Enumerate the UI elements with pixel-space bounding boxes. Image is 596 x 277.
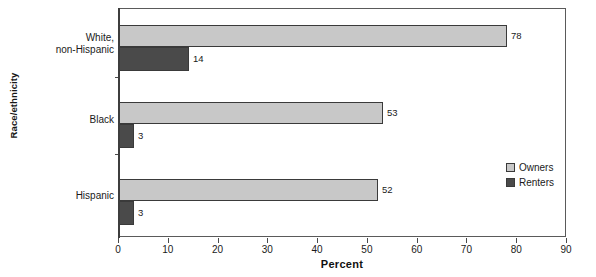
- x-tick: [516, 238, 517, 243]
- legend-swatch-renters-icon: [506, 178, 515, 187]
- plot-area: 78 14 53 3 52 3: [118, 8, 566, 237]
- bar-hispanic-owners: [119, 179, 378, 201]
- x-tick-label: 50: [352, 244, 382, 255]
- category-label-white-non-hispanic: White, non-Hispanic: [4, 32, 118, 55]
- x-tick-label: 30: [252, 244, 282, 255]
- bar-value-hispanic-owners: 52: [382, 185, 393, 195]
- x-tick: [218, 238, 219, 243]
- x-tick: [118, 238, 119, 243]
- x-tick-label: 40: [302, 244, 332, 255]
- value-axis-line: [118, 8, 120, 238]
- bar-white-non-hispanic-owners: [119, 25, 507, 47]
- bar-value-white-non-hispanic-renters: 14: [193, 54, 204, 64]
- chart-legend: Owners Renters: [506, 160, 554, 190]
- legend-item-renters: Renters: [506, 175, 554, 189]
- category-axis-labels: White, non-Hispanic Black Hispanic: [0, 0, 118, 277]
- legend-label-owners: Owners: [519, 162, 553, 173]
- bar-black-owners: [119, 102, 383, 124]
- x-tick: [466, 238, 467, 243]
- x-tick-label: 80: [501, 244, 531, 255]
- bar-white-non-hispanic-renters: [119, 47, 189, 71]
- category-label-black: Black: [4, 114, 118, 126]
- x-tick-label: 60: [402, 244, 432, 255]
- x-tick: [168, 238, 169, 243]
- x-tick: [267, 238, 268, 243]
- category-label-line1: Hispanic: [76, 190, 114, 201]
- category-label-line2: non-Hispanic: [56, 44, 114, 55]
- category-label-line1: Black: [90, 114, 114, 125]
- x-tick: [317, 238, 318, 243]
- x-tick-label: 20: [203, 244, 233, 255]
- x-axis-title: Percent: [118, 258, 566, 270]
- x-tick-label: 70: [451, 244, 481, 255]
- x-tick-label: 10: [153, 244, 183, 255]
- bar-value-hispanic-renters: 3: [138, 208, 143, 218]
- x-tick: [367, 238, 368, 243]
- bar-hispanic-renters: [119, 201, 134, 225]
- x-tick: [566, 238, 567, 243]
- category-label-line1: White,: [86, 32, 114, 43]
- x-tick-label: 0: [103, 244, 133, 255]
- legend-label-renters: Renters: [519, 177, 554, 188]
- legend-item-owners: Owners: [506, 160, 554, 174]
- bar-value-black-renters: 3: [138, 131, 143, 141]
- bar-value-white-non-hispanic-owners: 78: [511, 31, 522, 41]
- x-tick: [417, 238, 418, 243]
- bar-value-black-owners: 53: [387, 108, 398, 118]
- legend-swatch-owners-icon: [506, 163, 515, 172]
- bar-chart: Race/ethnicity White, non-Hispanic Black…: [0, 0, 596, 277]
- x-tick-label: 90: [551, 244, 581, 255]
- bar-black-renters: [119, 124, 134, 148]
- category-label-hispanic: Hispanic: [4, 190, 118, 202]
